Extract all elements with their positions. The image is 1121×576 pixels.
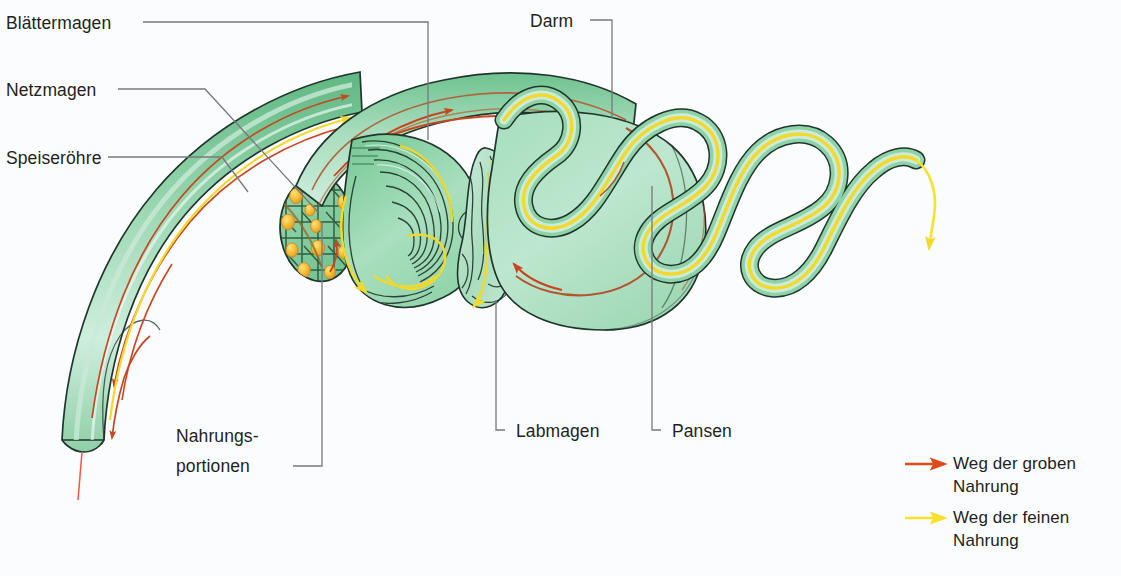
label-speiseroehre: Speiseröhre [6, 147, 101, 170]
label-darm: Darm [530, 10, 573, 33]
legend-label-fine-line2: Nahrung [953, 530, 1019, 552]
label-blaettermagen: Blättermagen [6, 12, 111, 35]
label-pansen: Pansen [672, 420, 732, 443]
legend-label-coarse-line2: Nahrung [953, 476, 1019, 498]
label-netzmagen: Netzmagen [6, 79, 96, 102]
label-nahrungsportionen-line1: Nahrungs- [176, 425, 259, 448]
label-nahrungsportionen-line2: portionen [176, 455, 250, 478]
legend-label-fine-line1: Weg der feinen [953, 507, 1069, 529]
legend-arrows [905, 464, 944, 518]
label-labmagen: Labmagen [516, 420, 600, 443]
diagram-canvas: Blättermagen Netzmagen Speiseröhre Darm … [0, 0, 1121, 576]
legend-label-coarse-line1: Weg der groben [953, 453, 1076, 475]
leader-labmagen [496, 300, 505, 430]
